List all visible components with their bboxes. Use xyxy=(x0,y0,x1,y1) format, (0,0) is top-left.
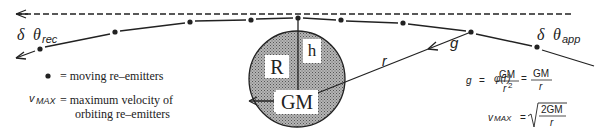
emitter-dot xyxy=(534,44,539,49)
label-r: r xyxy=(382,53,388,69)
svg-text:=: = xyxy=(479,75,485,86)
emitter-dot xyxy=(295,15,300,20)
svg-text:=: = xyxy=(521,73,527,84)
label-R: R xyxy=(270,56,284,78)
vmax-equation: v MAX = 2GM r xyxy=(488,103,567,128)
svg-text:MAX: MAX xyxy=(494,114,512,123)
label-delta-theta-app: δ θ app xyxy=(537,26,580,45)
emitter-dot xyxy=(468,29,473,34)
svg-text:GM: GM xyxy=(533,68,549,79)
equation-g: g = GM r 2 xyxy=(466,69,519,94)
svg-text:r: r xyxy=(550,117,554,128)
svg-text:=: = xyxy=(520,112,526,123)
svg-text:φ(r): φ(r) xyxy=(494,73,511,84)
legend-vmax-line2: orbiting re–emitters xyxy=(75,107,170,121)
emitter-dot xyxy=(37,46,42,51)
svg-text:MAX: MAX xyxy=(36,96,57,106)
svg-text:app: app xyxy=(562,33,580,45)
emitter-dot xyxy=(338,17,343,22)
label-GM: GM xyxy=(281,91,313,113)
emitter-dot xyxy=(248,17,253,22)
svg-text:g: g xyxy=(466,75,472,86)
emitter-dot xyxy=(187,19,192,24)
undeflected-path xyxy=(16,10,572,18)
legend-vmax-line1: = maximum velocity of xyxy=(60,93,173,107)
svg-text:δ: δ xyxy=(17,26,25,43)
label-g: g xyxy=(450,34,459,51)
label-delta-theta-rec: δ θ rec xyxy=(17,26,58,45)
svg-text:θ: θ xyxy=(33,26,41,43)
legend-dot-icon xyxy=(45,73,50,78)
diagram-canvas: R h GM r g δ θ rec δ θ app = moving re–e… xyxy=(0,0,614,135)
svg-text:r: r xyxy=(503,83,507,94)
emitter-dot xyxy=(112,29,117,34)
legend: = moving re–emitters v MAX = maximum vel… xyxy=(29,69,173,121)
svg-text:r: r xyxy=(539,81,543,92)
arrowhead-left-icon xyxy=(16,10,28,18)
svg-text:θ: θ xyxy=(553,26,561,43)
emitter-dot xyxy=(400,20,405,25)
label-h: h xyxy=(308,41,317,60)
legend-vmax-symbol: v xyxy=(29,92,36,104)
legend-dot-text: = moving re–emitters xyxy=(60,69,164,83)
svg-text:δ: δ xyxy=(537,26,545,43)
svg-text:2GM: 2GM xyxy=(541,104,563,115)
svg-text:rec: rec xyxy=(42,33,58,45)
